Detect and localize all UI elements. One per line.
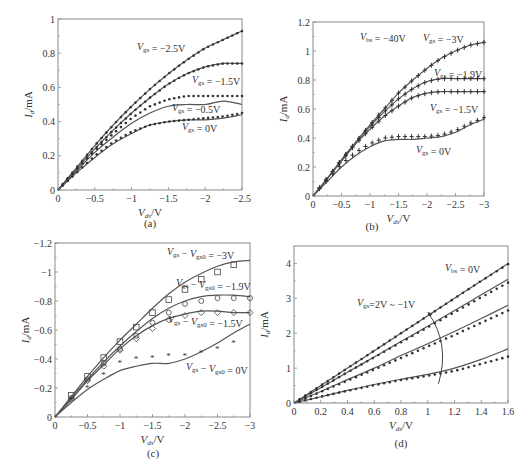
x-axis-label: Vds/V (389, 419, 413, 433)
data-point (355, 388, 358, 391)
data-point (166, 297, 172, 303)
data-point (236, 113, 239, 116)
series-1 (313, 76, 486, 196)
data-point (241, 30, 244, 33)
data-point (236, 32, 239, 35)
data-point (134, 129, 137, 132)
data-point (462, 367, 465, 370)
data-point (462, 292, 465, 295)
data-point (475, 41, 479, 46)
data-point (479, 281, 482, 284)
data-point (226, 36, 229, 39)
data-point (343, 369, 346, 372)
series-1 (294, 279, 509, 403)
x-tick-label: 0.8 (395, 406, 408, 417)
data-point (207, 45, 210, 48)
y-tick-label: −0.2 (34, 383, 52, 394)
data-point (216, 116, 219, 119)
x-tick-label: 0.6 (368, 406, 381, 417)
data-point (207, 117, 210, 120)
curve-annotation: Vbs = −40V (360, 31, 407, 44)
data-point (410, 96, 414, 101)
data-point (120, 126, 123, 129)
data-point (484, 320, 487, 323)
data-point (91, 148, 94, 151)
series-0 (313, 40, 486, 196)
curve-annotation: Vgs − Vgs0 = −1.9V (176, 277, 252, 292)
data-point (403, 134, 407, 139)
data-point (144, 108, 147, 111)
data-point (482, 40, 486, 45)
data-point (168, 120, 171, 123)
data-point (91, 152, 94, 155)
data-point (383, 382, 386, 385)
data-point (484, 361, 487, 364)
data-point (469, 89, 473, 94)
x-tick-label: 1 (425, 406, 430, 417)
curve-annotation: Vgs = −0.5V (172, 102, 221, 115)
data-point (115, 121, 118, 124)
x-tick-label: 0 (311, 199, 316, 210)
data-point (388, 362, 391, 365)
curve-annotation: Vgs − Vgs0 = −1.5V (168, 314, 244, 329)
data-point (490, 291, 493, 294)
data-point (429, 78, 433, 83)
data-point (105, 136, 108, 139)
data-point (221, 115, 224, 118)
data-point (397, 134, 401, 139)
data-point (212, 95, 215, 98)
data-point (173, 97, 176, 100)
x-tick-label: −3 (479, 199, 490, 210)
data-point (400, 379, 403, 382)
data-point (71, 173, 74, 176)
data-point (144, 92, 147, 95)
data-point (163, 100, 166, 103)
data-point (124, 117, 127, 120)
curve-annotation: Vgs = −2.5V (137, 41, 186, 54)
data-point (326, 388, 329, 391)
data-point (433, 342, 436, 345)
data-point (212, 43, 215, 46)
data-point: * (215, 344, 220, 354)
chart-panel-d: 00.20.40.60.811.21.41.601234Vds/VId/mA(d… (258, 246, 514, 450)
series-3 (313, 115, 486, 196)
data-point (450, 313, 453, 316)
y-tick-label: −0.6 (34, 325, 52, 336)
x-tick-label: 0 (56, 193, 61, 204)
figure-canvas: 0−0.5−1−1.5−2−2.500.20.40.60.81Vds/VId/m… (0, 0, 528, 474)
x-tick-label: 0.4 (341, 406, 354, 417)
data-point (226, 114, 229, 117)
data-point (462, 45, 466, 50)
data-point (326, 394, 329, 397)
data-point (144, 100, 147, 103)
data-point (410, 134, 414, 139)
y-tick-label: −1 (41, 267, 52, 278)
data-point (178, 96, 181, 99)
data-point (445, 371, 448, 374)
data-point (338, 391, 341, 394)
data-point (163, 86, 166, 89)
data-point (422, 347, 425, 350)
data-point (158, 122, 161, 125)
data-point: * (199, 348, 204, 358)
data-point (154, 84, 157, 87)
data-point (163, 76, 166, 79)
data-point (221, 62, 224, 65)
chart-panel-b: 0−0.5−1−1.5−2−2.5−300.20.40.60.811.2Vds/… (277, 17, 489, 234)
data-point (139, 97, 142, 100)
data-point (366, 371, 369, 374)
data-point (436, 89, 440, 94)
data-point (372, 384, 375, 387)
fit-curve (294, 305, 508, 403)
data-point (467, 303, 470, 306)
data-point (183, 74, 186, 77)
x-tick-label: 0.2 (315, 406, 328, 417)
panel-caption: (d) (395, 437, 408, 450)
data-point (416, 93, 420, 98)
data-point (139, 104, 142, 107)
data-point (91, 157, 94, 160)
data-point (105, 131, 108, 134)
data-point (310, 398, 313, 401)
chart-panel-c: 0−0.5−1−1.5−2−2.5−30−0.2−0.4−0.6−0.8−1−1… (19, 238, 255, 461)
data-point: * (85, 383, 90, 393)
